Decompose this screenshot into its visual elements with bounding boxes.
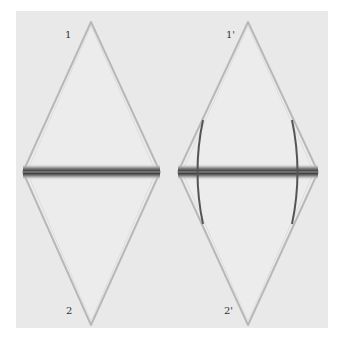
diamond-figure: [0, 0, 343, 344]
left-diamond: [23, 22, 160, 325]
right-diamond: [178, 22, 318, 325]
label-1: 1: [65, 30, 71, 40]
left-horizontal-band: [23, 164, 160, 180]
label-2: 2: [66, 306, 72, 316]
label-1-prime: 1': [226, 30, 235, 40]
label-2-prime: 2': [224, 306, 233, 316]
